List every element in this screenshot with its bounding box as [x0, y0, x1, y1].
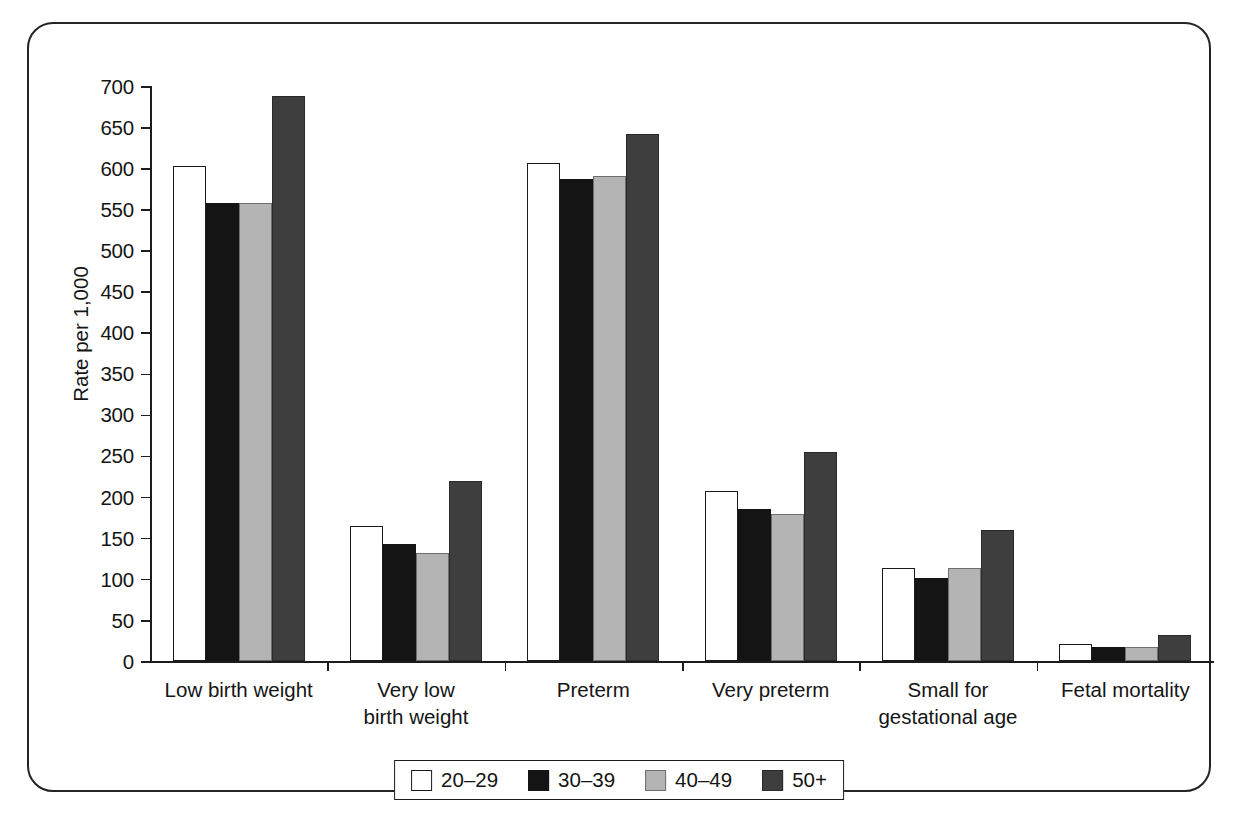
x-axis-category-label: Very low birth weight — [327, 676, 504, 730]
bar — [206, 203, 239, 661]
legend-label: 50+ — [792, 768, 827, 792]
y-axis-tick-label: 150 — [100, 527, 134, 551]
bar — [804, 452, 837, 661]
bar — [626, 134, 659, 661]
bar — [593, 176, 626, 661]
x-axis-tick — [505, 661, 507, 671]
y-axis-tick: 0 — [141, 661, 150, 663]
y-axis-tick: 400 — [141, 332, 150, 334]
y-axis-tick: 200 — [141, 497, 150, 499]
y-axis-tick-label: 450 — [100, 280, 134, 304]
y-axis-tick-label: 600 — [100, 157, 134, 181]
y-axis-tick: 150 — [141, 538, 150, 540]
bar — [948, 568, 981, 661]
x-axis-tick — [682, 661, 684, 671]
bar — [1158, 635, 1191, 661]
x-axis-category-label: Small for gestational age — [859, 676, 1036, 730]
y-axis-tick-label: 550 — [100, 198, 134, 222]
figure-frame: Rate per 1,000 0501001502002503003504004… — [27, 22, 1211, 792]
y-axis-tick-label: 100 — [100, 568, 134, 592]
y-axis-tick-label: 0 — [123, 650, 134, 674]
bar — [173, 166, 206, 661]
legend-label: 40–49 — [675, 768, 732, 792]
legend-swatch-icon — [762, 770, 783, 791]
bar — [560, 179, 593, 661]
legend-item[interactable]: 20–29 — [411, 768, 498, 792]
chart-figure: Rate per 1,000 0501001502002503003504004… — [0, 0, 1238, 820]
legend-item[interactable]: 50+ — [762, 768, 827, 792]
bar — [416, 553, 449, 661]
x-axis-category-label: Fetal mortality — [1037, 676, 1214, 703]
legend-label: 20–29 — [441, 768, 498, 792]
bar — [272, 96, 305, 661]
bar — [350, 526, 383, 661]
y-axis-tick: 500 — [141, 250, 150, 252]
x-axis-tick — [327, 661, 329, 671]
y-axis-tick-label: 250 — [100, 444, 134, 468]
bar — [449, 481, 482, 661]
y-axis-line — [150, 86, 152, 661]
y-axis-tick: 350 — [141, 374, 150, 376]
bar — [705, 491, 738, 661]
x-axis-tick — [859, 661, 861, 671]
y-axis-tick: 300 — [141, 415, 150, 417]
plot-area: 0501001502002503003504004505005506006507… — [150, 86, 1214, 661]
legend-swatch-icon — [645, 770, 666, 791]
bar — [882, 568, 915, 661]
bar — [1125, 647, 1158, 661]
y-axis-tick: 100 — [141, 579, 150, 581]
y-axis-tick: 450 — [141, 291, 150, 293]
y-axis-tick-label: 500 — [100, 239, 134, 263]
x-axis-category-label: Low birth weight — [150, 676, 327, 703]
legend-swatch-icon — [528, 770, 549, 791]
y-axis-label: Rate per 1,000 — [69, 266, 93, 402]
legend-label: 30–39 — [558, 768, 615, 792]
y-axis-tick-label: 400 — [100, 321, 134, 345]
bar — [1092, 647, 1125, 661]
y-axis-tick: 50 — [141, 620, 150, 622]
bar — [527, 163, 560, 661]
y-axis-tick-label: 50 — [112, 609, 134, 633]
y-axis-tick-label: 350 — [100, 362, 134, 386]
y-axis-tick: 250 — [141, 456, 150, 458]
y-axis-tick: 700 — [141, 86, 150, 88]
bar — [981, 530, 1014, 661]
x-axis-category-label: Preterm — [505, 676, 682, 703]
bar — [239, 203, 272, 661]
y-axis-tick: 600 — [141, 168, 150, 170]
bar — [771, 514, 804, 661]
legend-item[interactable]: 30–39 — [528, 768, 615, 792]
bar — [383, 544, 416, 661]
y-axis-tick-label: 700 — [100, 75, 134, 99]
bar — [915, 578, 948, 661]
y-axis-tick-label: 200 — [100, 486, 134, 510]
bar — [738, 509, 771, 661]
legend-swatch-icon — [411, 770, 432, 791]
y-axis-tick-label: 300 — [100, 403, 134, 427]
y-axis-tick: 550 — [141, 209, 150, 211]
x-axis-category-label: Very preterm — [682, 676, 859, 703]
y-axis-tick: 650 — [141, 127, 150, 129]
x-axis-tick — [1037, 661, 1039, 671]
y-axis-tick-label: 650 — [100, 116, 134, 140]
chart-legend: 20–2930–3940–4950+ — [394, 760, 844, 800]
bar — [1059, 644, 1092, 661]
legend-item[interactable]: 40–49 — [645, 768, 732, 792]
